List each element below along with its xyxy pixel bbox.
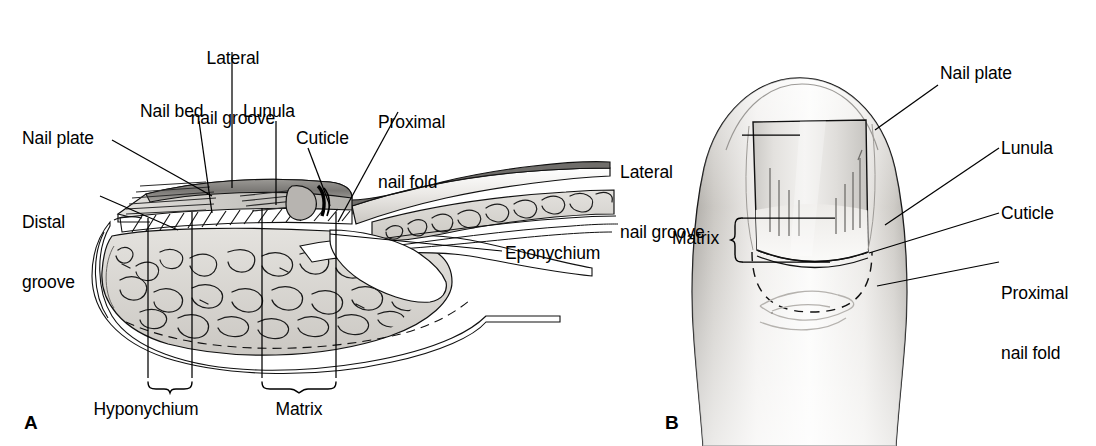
label-cuticle-a: Cuticle: [296, 128, 349, 148]
label-hyponychium-a: Hyponychium: [90, 399, 202, 419]
label-matrix-b: Matrix: [672, 228, 719, 248]
label-lunula-b: Lunula: [1001, 138, 1053, 158]
brackets-a: [148, 382, 336, 393]
bracket-matrix-a: [262, 382, 336, 393]
label-nail-plate-b: Nail plate: [940, 63, 1012, 83]
figure-artwork: [0, 0, 1096, 446]
bracket-hyponychium-a: [148, 382, 192, 393]
label-matrix-a: Matrix: [262, 399, 336, 419]
label-distal-groove-a: Distal groove: [22, 172, 75, 332]
label-proximal-nail-fold-b: Proximal nail fold: [1001, 243, 1068, 403]
label-lateral-nail-groove-b: Lateral nail groove: [620, 122, 705, 282]
label-nail-bed-a: Nail bed: [140, 101, 203, 121]
crease-dot-b: [771, 312, 773, 314]
label-cuticle-b: Cuticle: [1001, 203, 1054, 223]
label-nail-plate-a: Nail plate: [22, 128, 94, 148]
label-proximal-nail-fold-a: Proximal nail fold: [378, 72, 445, 232]
panel-letter-b: B: [665, 412, 679, 434]
label-eponychium-a: Eponychium: [505, 243, 600, 263]
leader-lunula-b: [885, 148, 999, 225]
label-lunula-a: Lunula: [243, 101, 295, 121]
leader-nail-plate-b: [875, 85, 938, 130]
panel-letter-a: A: [24, 412, 38, 434]
label-lateral-nail-groove-a: Lateral nail groove: [178, 8, 288, 168]
panel-b-artwork: [692, 78, 999, 446]
anatomy-figure: Lateral nail groove Nail bed Lunula Prox…: [0, 0, 1096, 446]
